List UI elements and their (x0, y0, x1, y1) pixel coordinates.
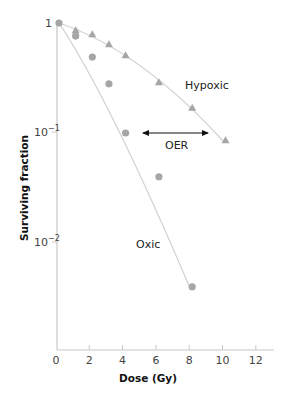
axes (57, 20, 274, 350)
hypoxic-label: Hypoxic (185, 79, 229, 92)
y-axis-title: Surviving fraction (18, 135, 30, 241)
y-tick-label: 10−2 (34, 234, 60, 249)
oxic-label: Oxic (136, 238, 160, 251)
oxic-point (189, 283, 196, 290)
x-tick-label: 2 (86, 354, 93, 367)
x-tick-label: 4 (119, 354, 126, 367)
oxic-point (55, 19, 62, 26)
hypoxic-point (88, 30, 96, 37)
x-axis-ticks: 024681012 (53, 345, 263, 367)
hypoxic-point (222, 136, 230, 143)
x-tick-label: 12 (249, 354, 263, 367)
y-tick-label: 1 (45, 17, 52, 30)
oxic-point (155, 173, 162, 180)
x-tick-label: 6 (152, 354, 159, 367)
oxic-fit-curve (59, 23, 190, 288)
oxic-point (89, 53, 96, 60)
x-axis-title: Dose (Gy) (119, 372, 177, 384)
x-tick-label: 8 (186, 354, 193, 367)
y-tick-label: 10−1 (34, 124, 60, 139)
oxic-point (105, 80, 112, 87)
oxic-point (122, 129, 129, 136)
x-tick-label: 0 (53, 354, 60, 367)
x-tick-label: 10 (216, 354, 230, 367)
y-axis-ticks: 110−110−2 (34, 17, 60, 249)
oxic-point (72, 33, 79, 40)
oer-label: OER (165, 139, 189, 152)
survival-curve-chart: 110−110−2 024681012 Hypoxic OER Oxic Dos… (0, 0, 292, 404)
